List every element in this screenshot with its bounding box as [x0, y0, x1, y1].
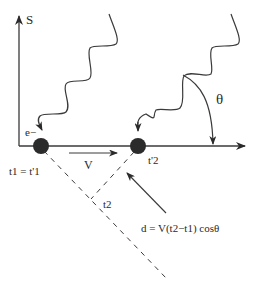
theta-angle-arc [183, 75, 213, 144]
incoming-photon-1 [38, 14, 117, 130]
electron-position-2 [130, 138, 146, 154]
axis-label-s: S [26, 12, 33, 27]
wavefront-dashed-line-1 [44, 151, 166, 278]
electron-position-1 [33, 138, 49, 154]
t2-label: t2 [103, 198, 112, 210]
incoming-photon-2 [137, 14, 239, 130]
wavefront-dashed-line-2 [91, 152, 134, 199]
photon-electron-scattering-diagram: S θ e− V t1 = t'1 t'2 t2 d = V(t2−t1) co… [0, 0, 253, 287]
t1-equals-t1-prime-label: t1 = t'1 [9, 165, 40, 177]
t2-prime-label: t'2 [148, 154, 159, 166]
distance-pointer-arrow [127, 173, 166, 213]
theta-label: θ [216, 91, 223, 107]
distance-formula: d = V(t2−t1) cosθ [141, 222, 219, 235]
electron-label: e− [25, 126, 36, 138]
velocity-label: V [84, 158, 93, 172]
